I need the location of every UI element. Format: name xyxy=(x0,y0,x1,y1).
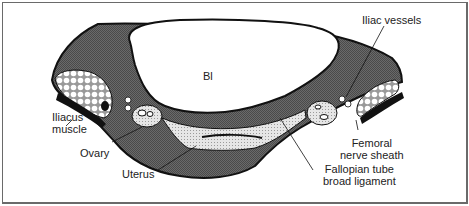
femoral-line2: nerve sheath xyxy=(340,149,404,161)
iliacus-muscle-label: Iliacus muscle xyxy=(52,111,87,135)
ovary-label: Ovary xyxy=(80,147,109,159)
iliacus-line2: muscle xyxy=(52,123,87,135)
femoral-nerve-label: Femoral nerve sheath xyxy=(340,137,404,161)
left-ovary xyxy=(132,105,162,127)
iliacus-line1: Iliacus xyxy=(52,111,87,123)
fallopian-line1: Fallopian tube xyxy=(323,163,396,175)
iliac-vessels-label: Iliac vessels xyxy=(362,14,421,26)
femoral-line1: Femoral xyxy=(340,137,404,149)
pelvis-cross-section xyxy=(0,0,469,206)
uterus-label: Uterus xyxy=(122,168,154,180)
fallopian-label: Fallopian tube broad ligament xyxy=(323,163,396,187)
fallopian-line2: broad ligament xyxy=(323,175,396,187)
right-ovary xyxy=(307,101,337,125)
bladder-label: Bl xyxy=(203,70,213,82)
